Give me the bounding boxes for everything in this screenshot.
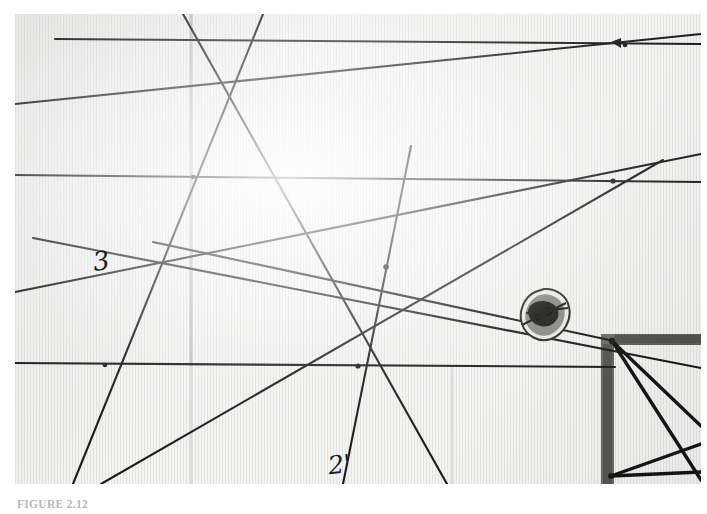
diagonal-members xyxy=(15,14,701,484)
horizontal-members xyxy=(15,39,701,367)
joint-node-upper-right xyxy=(610,178,615,183)
corner-joint-members xyxy=(611,341,701,480)
member-chord-top xyxy=(55,39,701,44)
joint-node-left-lower xyxy=(103,363,108,368)
line-diagram xyxy=(15,14,701,484)
member-diag-d xyxy=(15,154,701,292)
member-diag-e xyxy=(33,238,701,368)
joint-node-corner-lower xyxy=(608,473,614,479)
joints xyxy=(103,43,628,479)
joint-node-upper-left xyxy=(191,175,196,180)
ink-blot-icon xyxy=(518,287,574,343)
joint-node-center xyxy=(383,264,389,270)
figure-container: 3 2' FIGURE 2.12 xyxy=(0,0,707,514)
member-chord-upper xyxy=(15,175,701,182)
joint-node-bottom-center xyxy=(355,363,360,368)
joint-node-top-right xyxy=(623,43,628,48)
joint-node-corner-upper xyxy=(609,338,615,344)
handwritten-label-2-prime: 2' xyxy=(327,449,353,480)
figure-caption: FIGURE 2.12 xyxy=(17,498,88,510)
photograph-plate: 3 2' xyxy=(15,14,701,484)
member-diag-c xyxy=(15,34,701,104)
